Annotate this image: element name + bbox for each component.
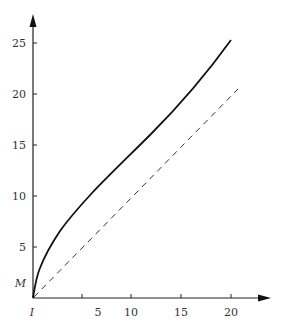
x-axis-arrow-icon: [258, 295, 271, 302]
x-tick-labels: 5 10 15 20 I: [29, 306, 238, 319]
x-tick-label: 20: [224, 306, 238, 319]
i-label: I: [29, 306, 35, 319]
dashed-reference-line: [34, 89, 238, 297]
y-axis-arrow-icon: [30, 14, 37, 27]
plot-area: 5 10 15 20 25 M 5 10 15 20 I: [0, 0, 282, 328]
y-tick-labels: 5 10 15 20 25 M: [12, 37, 27, 290]
x-tick-label: 10: [124, 306, 138, 319]
y-tick-label: 15: [12, 139, 26, 152]
chart: 5 10 15 20 25 M 5 10 15 20 I: [0, 0, 282, 328]
y-tick-label: 25: [12, 37, 26, 50]
y-tick-label: 5: [19, 241, 26, 254]
solid-curve: [33, 40, 231, 298]
y-tick-label: 10: [12, 190, 26, 203]
y-tick-label: 20: [12, 88, 26, 101]
x-tick-label: 5: [95, 306, 102, 319]
m-label: M: [14, 277, 27, 290]
x-tick-label: 15: [174, 306, 188, 319]
